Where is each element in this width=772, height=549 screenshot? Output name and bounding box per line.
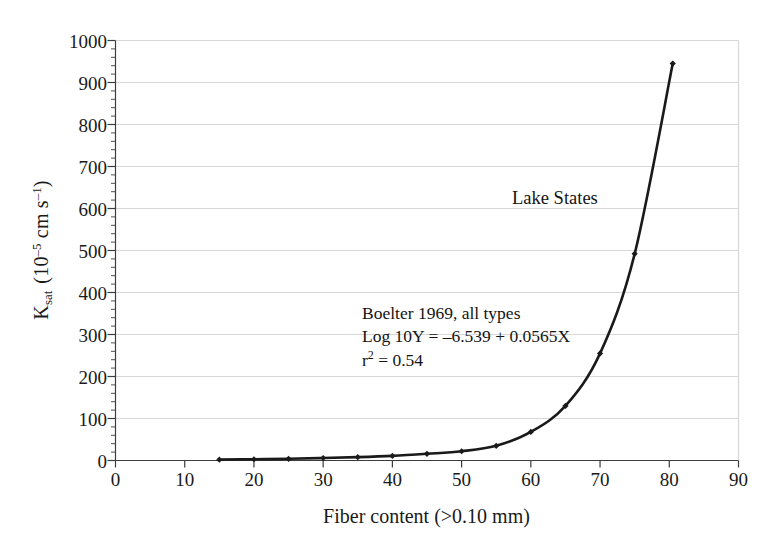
- rsq-value: = 0.54: [374, 349, 423, 369]
- x-tick-label-30: 30: [293, 470, 353, 489]
- y-tick-label-900: 900: [47, 73, 107, 92]
- y-tick-label-400: 400: [47, 283, 107, 302]
- x-tick-label-90: 90: [709, 470, 769, 489]
- x-tick-label-70: 70: [570, 470, 630, 489]
- y-tick-label-300: 300: [47, 325, 107, 344]
- y-tick-label-500: 500: [47, 241, 107, 260]
- data-curve-lake-states: [219, 64, 672, 460]
- chart-figure: 01002003004005006007008009001000 0102030…: [0, 0, 772, 549]
- y-tick-label-700: 700: [47, 157, 107, 176]
- annotation-series-label: Lake States: [512, 186, 598, 210]
- x-tick-label-20: 20: [224, 470, 284, 489]
- y-tick-label-1000: 1000: [47, 31, 107, 50]
- y-tick-label-200: 200: [47, 367, 107, 386]
- annotation-line-rsquared: r2 = 0.54: [362, 348, 570, 371]
- data-markers: [216, 61, 676, 463]
- y-axis-tick-labels: 01002003004005006007008009001000: [45, 0, 107, 549]
- x-tick-label-60: 60: [501, 470, 561, 489]
- annotation-regression-stats: Boelter 1969, all types Log 10Y = –6.539…: [362, 302, 570, 371]
- x-axis-title: Fiber content (>0.10 mm): [115, 505, 738, 528]
- x-axis-tick-labels: 0102030405060708090: [0, 470, 772, 500]
- x-tick-label-10: 10: [155, 470, 215, 489]
- x-tick-label-40: 40: [362, 470, 422, 489]
- y-axis-ticks: [108, 41, 116, 461]
- x-axis-ticks: [116, 461, 739, 468]
- y-tick-label-0: 0: [47, 451, 107, 470]
- y-tick-label-800: 800: [47, 115, 107, 134]
- y-tick-label-100: 100: [47, 409, 107, 428]
- x-tick-label-80: 80: [639, 470, 699, 489]
- annotation-line-equation: Log 10Y = –6.539 + 0.0565X: [362, 325, 570, 348]
- y-tick-label-600: 600: [47, 199, 107, 218]
- x-tick-label-50: 50: [432, 470, 492, 489]
- x-tick-label-0: 0: [86, 470, 146, 489]
- annotation-line-citation: Boelter 1969, all types: [362, 302, 570, 325]
- plot-area: [0, 0, 772, 549]
